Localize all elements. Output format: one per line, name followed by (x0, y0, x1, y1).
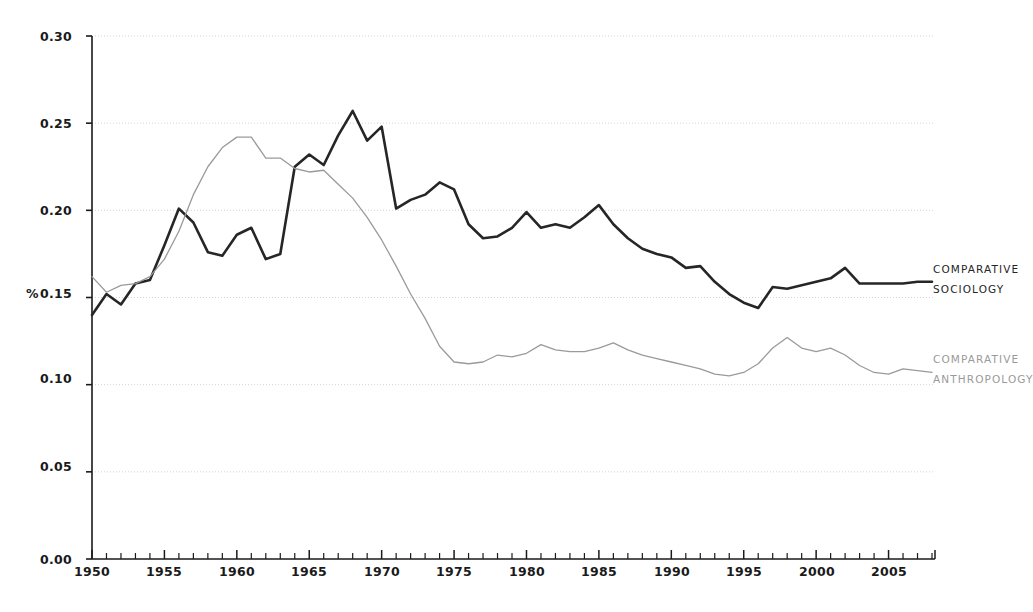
legend-label-line: SOCIOLOGY (933, 279, 1019, 299)
x-tick-label: 2005 (859, 564, 919, 579)
x-tick-label: 1990 (642, 564, 702, 579)
x-tick-label: 1985 (569, 564, 629, 579)
y-tick-label: 0.25 (26, 116, 72, 131)
x-tick-label: 1950 (62, 564, 122, 579)
y-tick-label: 0.30 (26, 29, 72, 44)
x-tick-label: 2000 (787, 564, 847, 579)
x-tick-label: 1970 (352, 564, 412, 579)
x-tick-label: 1955 (134, 564, 194, 579)
legend-label-line: COMPARATIVE (933, 259, 1019, 279)
chart-plot-area (0, 0, 1033, 612)
legend-label-comparative-sociology: COMPARATIVE SOCIOLOGY (933, 259, 1019, 299)
y-tick-label: 0.10 (26, 371, 72, 386)
legend-label-line: COMPARATIVE (933, 349, 1033, 369)
x-tick-label: 1995 (714, 564, 774, 579)
chart-figure: % 0.30 0.25 0.20 0.15 0.10 0.05 0.00 195… (0, 0, 1033, 612)
series-line-comparative-anthropology (92, 137, 932, 376)
y-tick-label: 0.05 (26, 459, 72, 474)
x-tick-label: 1965 (279, 564, 339, 579)
legend-label-line: ANTHROPOLOGY (933, 369, 1033, 389)
y-tick-label: 0.20 (26, 203, 72, 218)
y-tick-label: 0.15 (26, 286, 72, 301)
legend-label-comparative-anthropology: COMPARATIVE ANTHROPOLOGY (933, 349, 1033, 389)
series-line-comparative-sociology (92, 111, 932, 315)
x-tick-label: 1975 (424, 564, 484, 579)
x-tick-label: 1960 (207, 564, 267, 579)
x-tick-label: 1980 (497, 564, 557, 579)
